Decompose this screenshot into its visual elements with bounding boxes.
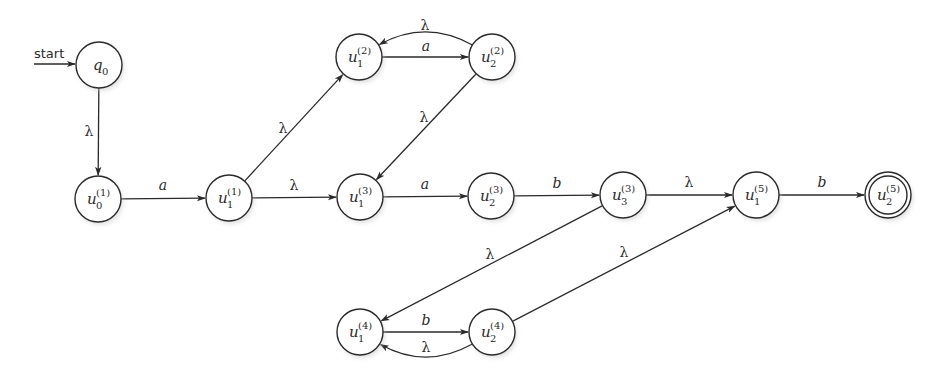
state-label-subscript: 1 — [358, 333, 364, 344]
state-label-superscript: (3) — [358, 185, 372, 196]
state-u2_2: u2(2) — [469, 34, 517, 83]
state-circle — [336, 34, 382, 80]
transition-label-u2_4-u1_5: λ — [620, 244, 629, 260]
state-u2_3: u2(3) — [468, 173, 516, 222]
transition-label-u2_2-u1_3: λ — [420, 109, 429, 125]
state-u0_1: u0(1) — [75, 176, 123, 225]
state-u1_1: u1(1) — [206, 175, 254, 224]
transition-label-u1_1-u1_2: λ — [279, 120, 288, 136]
state-u1_2: u1(2) — [336, 34, 384, 83]
transition-label-u0_1-u1_1: a — [159, 177, 167, 193]
automaton-diagram: start λaλλaλλabλbλbλλ q0u0(1)u1(1)u1(2)u… — [0, 0, 940, 382]
transition-u0_1-u1_1 — [121, 198, 205, 199]
state-label-subscript: 1 — [358, 198, 364, 209]
state-u2_4: u2(4) — [469, 309, 517, 358]
state-circle — [600, 172, 646, 218]
transition-label-u2_2-u1_2: λ — [421, 17, 430, 33]
state-u1_5: u1(5) — [733, 172, 781, 221]
state-label-superscript: (4) — [490, 320, 504, 331]
states: q0u0(1)u1(1)u1(2)u2(2)u1(3)u2(3)u3(3)u1(… — [75, 34, 913, 358]
state-circle — [469, 309, 515, 355]
state-circle — [206, 175, 252, 221]
state-label-superscript: (4) — [358, 320, 372, 331]
state-label-subscript: 0 — [102, 66, 108, 77]
transition-label-u2_3-u3_3: b — [553, 175, 562, 191]
transition-label-u1_5-u2_5: b — [818, 174, 827, 190]
start-indicator: start — [34, 46, 75, 64]
transition-u2_2-u1_3 — [376, 74, 476, 180]
transition-label-u1_1-u1_3: λ — [290, 177, 299, 193]
state-label-subscript: 1 — [227, 199, 233, 210]
state-circle — [337, 309, 383, 355]
accepting-ring — [869, 176, 907, 214]
state-u1_3: u1(3) — [337, 174, 385, 223]
transition-u1_3-u2_3 — [383, 196, 467, 197]
transition-u1_1-u1_2 — [245, 75, 343, 181]
transition-q0-u0_1 — [98, 88, 99, 175]
state-q0: q0 — [76, 42, 124, 91]
state-label-subscript: 3 — [621, 196, 627, 207]
state-label-superscript: (5) — [886, 183, 900, 194]
transition-label-u3_3-u1_4: λ — [486, 246, 495, 262]
transition-u1_1-u1_3 — [252, 197, 336, 198]
state-label-subscript: 0 — [96, 200, 102, 211]
transition-label-u1_2-u2_2: a — [422, 38, 430, 54]
state-label-superscript: (3) — [621, 183, 635, 194]
state-label-superscript: (2) — [490, 45, 504, 56]
state-label-superscript: (5) — [754, 183, 768, 194]
transition-u2_4-u1_5 — [512, 206, 734, 321]
state-label-subscript: 2 — [489, 197, 495, 208]
state-label-superscript: (1) — [96, 187, 110, 198]
transition-label-u1_3-u2_3: a — [421, 176, 429, 192]
state-label-subscript: 2 — [490, 333, 496, 344]
transition-label-q0-u0_1: λ — [85, 123, 94, 139]
state-circle — [469, 34, 515, 80]
state-circle — [75, 176, 121, 222]
state-label-subscript: 2 — [886, 196, 892, 207]
state-label-superscript: (2) — [357, 45, 371, 56]
state-u2_5: u2(5) — [865, 172, 913, 221]
transition-u3_3-u1_4 — [381, 206, 602, 321]
transition-u2_3-u3_3 — [514, 195, 599, 196]
state-label-subscript: 2 — [490, 58, 496, 69]
state-u1_4: u1(4) — [337, 309, 385, 358]
state-label-subscript: 1 — [357, 58, 363, 69]
transition-label-u1_4-u2_4: b — [422, 312, 431, 328]
transition-label-u3_3-u1_5: λ — [685, 174, 694, 190]
state-circle — [337, 174, 383, 220]
state-u3_3: u3(3) — [600, 172, 648, 221]
state-circle — [468, 173, 514, 219]
state-label-superscript: (1) — [227, 186, 241, 197]
state-label-subscript: 1 — [754, 196, 760, 207]
state-circle — [733, 172, 779, 218]
transition-labels: λaλλaλλabλbλbλλ — [85, 17, 827, 355]
transition-label-u2_4-u1_4: λ — [422, 339, 431, 355]
state-label-superscript: (3) — [489, 184, 503, 195]
start-label: start — [34, 46, 64, 61]
